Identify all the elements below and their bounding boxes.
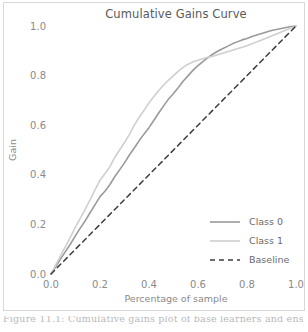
figure-container: Cumulative Gains Curve 0.00.20.40.60.81.… [0, 0, 308, 332]
x-axis-label: Percentage of sample [124, 293, 227, 304]
chart-legend: Class 0Class 1Baseline [210, 216, 289, 265]
y-tick-label: 0.4 [30, 169, 46, 180]
y-axis-ticks: 0.00.20.40.60.81.0 [30, 21, 46, 280]
y-tick-label: 0.6 [30, 120, 46, 131]
x-tick-label: 0.4 [141, 279, 157, 290]
y-axis-label: Gain [7, 139, 18, 161]
y-tick-label: 0.8 [30, 70, 46, 81]
chart-title: Cumulative Gains Curve [105, 7, 247, 21]
x-tick-label: 0.0 [43, 279, 59, 290]
legend-label-class-1: Class 1 [249, 235, 283, 246]
figure-caption: Figure 11.1: Cumulative gains plot of ba… [3, 316, 303, 324]
figure-caption-strip: Figure 11.1: Cumulative gains plot of ba… [3, 316, 303, 330]
legend-label-baseline: Baseline [249, 254, 289, 265]
y-tick-label: 0.0 [30, 269, 46, 280]
x-axis-ticks: 0.00.20.40.60.81.0 [43, 279, 304, 290]
y-tick-label: 1.0 [30, 21, 46, 32]
x-tick-label: 0.6 [190, 279, 206, 290]
y-tick-label: 0.2 [30, 219, 46, 230]
x-tick-label: 1.0 [288, 279, 304, 290]
chart-title-group: Cumulative Gains Curve [105, 7, 247, 21]
legend-label-class-0: Class 0 [249, 216, 283, 227]
x-tick-label: 0.2 [92, 279, 108, 290]
x-tick-label: 0.8 [239, 279, 255, 290]
cumulative-gains-chart: Cumulative Gains Curve 0.00.20.40.60.81.… [0, 0, 308, 312]
